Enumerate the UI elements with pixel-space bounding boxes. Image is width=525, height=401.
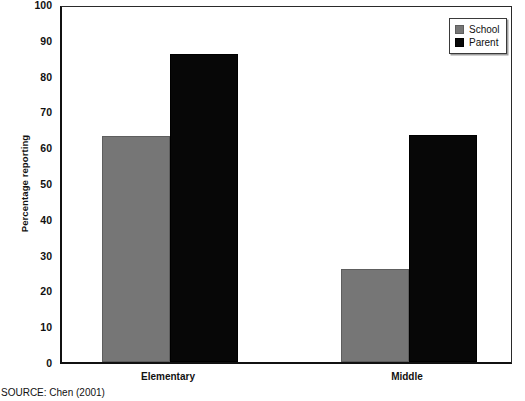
x-category-label-middle: Middle <box>347 371 467 382</box>
legend-label: Parent <box>469 37 498 48</box>
plot-area <box>60 6 512 364</box>
legend-item-parent: Parent <box>455 36 500 49</box>
source-note: SOURCE: Chen (2001) <box>1 387 105 398</box>
legend: SchoolParent <box>449 18 507 54</box>
legend-label: School <box>469 24 500 35</box>
bar-middle-school <box>341 269 409 362</box>
legend-swatch-icon <box>455 25 464 34</box>
legend-swatch-icon <box>455 38 464 47</box>
bar-elementary-school <box>102 136 170 362</box>
x-category-label-elementary: Elementary <box>108 371 228 382</box>
legend-item-school: School <box>455 23 500 36</box>
bar-chart-figure: Percentage reporting 0102030405060708090… <box>0 0 525 401</box>
bar-middle-parent <box>409 135 477 362</box>
bar-elementary-parent <box>170 54 238 362</box>
